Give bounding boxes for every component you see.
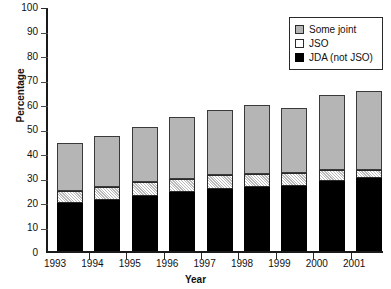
y-tick-label-0: 0 — [8, 248, 38, 258]
segment-some-1996 — [169, 117, 195, 178]
y-tick-label-70: 70 — [8, 76, 38, 86]
segment-jda-1996 — [169, 192, 195, 251]
y-tick-label-20: 20 — [8, 199, 38, 209]
legend-label-jda: JDA (not JSO) — [309, 52, 373, 63]
legend-item-jda: JDA (not JSO) — [295, 51, 377, 64]
y-tick-label-90: 90 — [8, 27, 38, 37]
segment-jda-2000 — [319, 181, 345, 251]
stacked-bar-chart: Percentage 100 90 80 70 60 50 40 30 20 1… — [0, 0, 391, 289]
y-tick-40 — [41, 155, 48, 156]
y-tick-label-60: 60 — [8, 101, 38, 111]
clipped-title-remnant — [33, 0, 263, 3]
segment-jda-2001 — [356, 178, 382, 252]
segment-jda-1994 — [94, 200, 120, 252]
y-tick-label-40: 40 — [8, 150, 38, 160]
bar-1995 — [132, 8, 158, 251]
chart-legend: Some joint JSO JDA (not JSO) — [289, 17, 383, 70]
segment-jso-1993 — [57, 191, 83, 203]
segment-some-1994 — [94, 136, 120, 188]
segment-jda-1999 — [281, 186, 307, 251]
legend-item-some-joint: Some joint — [295, 23, 377, 36]
y-tick-10 — [41, 229, 48, 230]
segment-jso-1997 — [207, 175, 233, 189]
y-tick-90 — [41, 33, 48, 34]
y-tick-30 — [41, 180, 48, 181]
bar-1996 — [169, 8, 195, 251]
segment-some-1998 — [244, 105, 270, 174]
segment-jda-1997 — [207, 189, 233, 252]
bar-1998 — [244, 8, 270, 251]
segment-jso-1994 — [94, 187, 120, 199]
black-swatch-icon — [295, 53, 304, 62]
legend-item-jso: JSO — [295, 37, 377, 50]
legend-label-jso: JSO — [309, 38, 328, 49]
segment-jso-1996 — [169, 179, 195, 193]
y-tick-80 — [41, 57, 48, 58]
bar-1997 — [207, 8, 233, 251]
white-swatch-icon — [295, 39, 304, 48]
gray-swatch-icon — [295, 25, 304, 34]
y-tick-label-100: 100 — [8, 3, 38, 13]
y-tick-label-50: 50 — [8, 125, 38, 135]
segment-some-1997 — [207, 110, 233, 175]
y-tick-50 — [41, 131, 48, 132]
segment-some-2000 — [319, 95, 345, 170]
segment-some-1995 — [132, 127, 158, 182]
segment-some-1993 — [57, 143, 83, 191]
segment-some-2001 — [356, 91, 382, 171]
segment-jso-1999 — [281, 173, 307, 187]
y-tick-label-30: 30 — [8, 174, 38, 184]
legend-label-some-joint: Some joint — [309, 24, 356, 35]
x-tick-label-2001: 2001 — [332, 258, 376, 269]
segment-some-1999 — [281, 108, 307, 173]
segment-jso-2001 — [356, 170, 382, 177]
segment-jso-2000 — [319, 170, 345, 181]
segment-jda-1998 — [244, 187, 270, 251]
y-tick-20 — [41, 204, 48, 205]
bar-1994 — [94, 8, 120, 251]
y-tick-label-10: 10 — [8, 223, 38, 233]
segment-jso-1998 — [244, 174, 270, 188]
x-axis-title: Year — [0, 274, 391, 285]
y-tick-70 — [41, 82, 48, 83]
segment-jda-1995 — [132, 196, 158, 251]
bar-1993 — [57, 8, 83, 251]
y-tick-label-80: 80 — [8, 52, 38, 62]
segment-jda-1993 — [57, 203, 83, 251]
y-tick-100 — [41, 8, 48, 9]
y-tick-60 — [41, 106, 48, 107]
segment-jso-1995 — [132, 182, 158, 196]
